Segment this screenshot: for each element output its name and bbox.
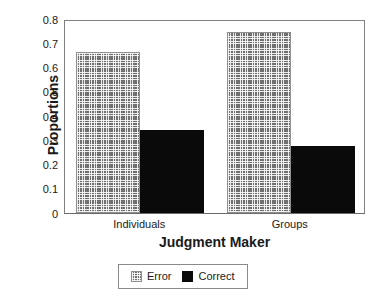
y-axis-tick-label: 0.1 xyxy=(26,184,58,195)
y-axis-tick-label: 0.2 xyxy=(26,160,58,171)
legend-label: Error xyxy=(147,271,171,282)
y-axis-tick-label: 0.6 xyxy=(26,63,58,74)
y-axis-tick-label: 0.5 xyxy=(26,87,58,98)
y-axis-tick-label: 0.4 xyxy=(26,112,58,123)
y-axis-tick-label: 0.7 xyxy=(26,39,58,50)
legend-swatch-correct-icon xyxy=(182,271,193,282)
x-axis-tick-label: Groups xyxy=(230,218,350,231)
y-axis-tick-label: 0.3 xyxy=(26,136,58,147)
y-axis-tick-label: 0.8 xyxy=(26,15,58,26)
legend-entry-error: Error xyxy=(131,271,171,282)
legend-label: Correct xyxy=(198,271,234,282)
y-axis-tick-labels: 0.80.70.60.50.40.30.20.10 xyxy=(26,0,58,301)
plot-area xyxy=(64,20,365,214)
bar-correct-groups xyxy=(291,146,355,213)
bar-error-groups xyxy=(227,32,291,213)
bar-error-individuals xyxy=(76,52,140,213)
legend-swatch-error-icon xyxy=(131,271,142,282)
x-axis-tick-label: Individuals xyxy=(79,218,199,231)
chart-legend: ErrorCorrect xyxy=(118,264,248,289)
y-axis-tick-label: 0 xyxy=(26,209,58,220)
bar-correct-individuals xyxy=(140,130,204,213)
x-axis-title: Judgment Maker xyxy=(64,234,365,250)
bar-chart-figure: Proportions 0.80.70.60.50.40.30.20.10 In… xyxy=(0,0,385,301)
bars-container xyxy=(65,21,364,213)
legend-entry-correct: Correct xyxy=(182,271,234,282)
